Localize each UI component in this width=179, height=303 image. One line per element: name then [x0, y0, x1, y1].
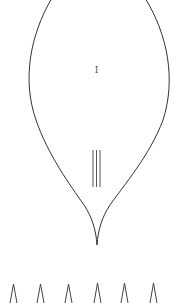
- spike-icon: [121, 283, 128, 303]
- spike-icon: [94, 283, 101, 303]
- spike-icon: [150, 283, 157, 303]
- spike-icon: [10, 284, 17, 303]
- spike-row: [10, 283, 157, 303]
- leaf-outline: [29, 0, 169, 245]
- spike-icon: [65, 284, 72, 303]
- shape-label: I: [95, 65, 99, 75]
- spike-icon: [37, 284, 44, 303]
- vein-lines: [93, 150, 100, 187]
- diagram-canvas: I: [0, 0, 179, 303]
